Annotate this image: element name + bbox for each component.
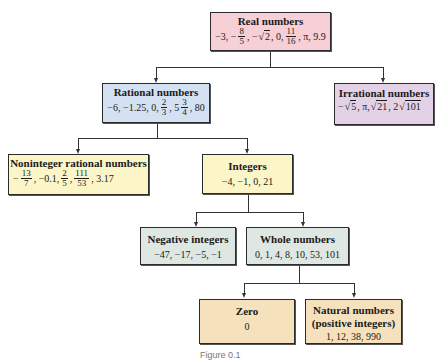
node-zero: Zero 0 [199, 299, 295, 344]
node-noninteger-rational-numbers: Noninteger rational numbers − 137 , −0.1… [8, 154, 149, 195]
connector [156, 67, 157, 78]
node-title: Zero [200, 305, 294, 317]
connector [248, 194, 249, 212]
fraction: 11153 [74, 169, 89, 188]
sqrt-icon: √2 [259, 31, 271, 43]
fraction: 34 [181, 98, 188, 117]
sqrt-icon: √5 [345, 101, 357, 113]
connector [78, 138, 247, 139]
sqrt-icon: √101 [399, 101, 421, 113]
node-integers: Integers −4, −1, 0, 21 [202, 154, 293, 194]
node-real-numbers: Real numbers −3, − 85 , − √2 , 0, 1116 ,… [210, 12, 331, 51]
connector [244, 283, 245, 293]
node-negative-integers: Negative integers −47, −17, −5, −1 [140, 227, 236, 265]
connector [247, 138, 248, 149]
node-values: 0, 1, 4, 8, 10, 53, 101 [247, 249, 348, 261]
node-subtitle: (positive integers) [306, 317, 401, 329]
node-natural-numbers: Natural numbers (positive integers) 1, 1… [305, 299, 402, 344]
node-values: −3, − 85 , − √2 , 0, 1116 , π, 9.9 [211, 27, 330, 46]
node-rational-numbers: Rational numbers −6, −1.25, 0, 23 , 5 34… [102, 83, 210, 123]
fraction: 85 [238, 27, 245, 46]
node-title: Integers [203, 160, 292, 172]
node-values: − √5 , π, √21 , 2 √101 [335, 101, 433, 113]
node-whole-numbers: Whole numbers 0, 1, 4, 8, 10, 53, 101 [246, 227, 349, 265]
node-values: 1, 12, 38, 990 [306, 331, 401, 343]
arrow-icon [242, 293, 246, 298]
node-title: Whole numbers [247, 233, 348, 245]
node-title: Irrational numbers [335, 87, 433, 99]
node-values: 0 [200, 321, 294, 333]
connector [244, 283, 354, 284]
node-values: −4, −1, 0, 21 [203, 176, 292, 188]
fraction: 23 [161, 98, 168, 117]
node-values: − 137 , −0.1, 25 , 11153 , 3.17 [9, 169, 148, 188]
fraction: 137 [21, 169, 32, 188]
connector [354, 283, 355, 293]
node-title: Real numbers [211, 15, 330, 27]
connector [299, 265, 300, 283]
node-irrational-numbers: Irrational numbers − √5 , π, √21 , 2 √10… [334, 83, 434, 125]
node-title: Negative integers [141, 233, 235, 245]
connector [78, 138, 79, 149]
figure-caption: Figure 0.1 [200, 350, 241, 360]
fraction: 1116 [286, 27, 297, 46]
connector [303, 212, 304, 222]
sqrt-icon: √21 [371, 101, 388, 113]
node-values: −6, −1.25, 0, 23 , 5 34 , 80 [103, 98, 209, 117]
arrow-icon [352, 293, 356, 298]
connector [157, 123, 158, 138]
node-title: Rational numbers [103, 86, 209, 98]
connector [196, 212, 303, 213]
connector [383, 67, 384, 78]
connector [270, 50, 271, 67]
connector [196, 212, 197, 222]
node-values: −47, −17, −5, −1 [141, 249, 235, 261]
fraction: 25 [61, 169, 68, 188]
node-title: Natural numbers [306, 304, 401, 316]
connector [156, 67, 383, 68]
